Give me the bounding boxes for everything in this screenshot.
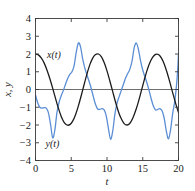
- y-tick-label: −3: [20, 137, 31, 148]
- y-tick-label: −2: [20, 120, 31, 131]
- plot-canvas: −4−3−2−10123405101520tx, yx(t)y(t): [0, 0, 195, 191]
- x-tick-label: 0: [33, 163, 38, 174]
- y-tick-label: 4: [26, 13, 32, 24]
- x-axis-title: t: [106, 176, 110, 187]
- y-tick-label: 0: [26, 84, 31, 95]
- chart-figure: −4−3−2−10123405101520tx, yx(t)y(t) t x, …: [0, 0, 195, 191]
- x-tick-label: 10: [102, 163, 113, 174]
- curve-label-x: x(t): [46, 49, 62, 61]
- x-tick-label: 5: [69, 163, 74, 174]
- y-axis-title: x, y: [2, 82, 13, 98]
- x-tick-label: 15: [138, 163, 149, 174]
- y-tick-label: −4: [20, 155, 32, 166]
- x-tick-label: 20: [173, 163, 184, 174]
- curve-label-y: y(t): [45, 138, 61, 150]
- y-tick-label: 1: [26, 66, 31, 77]
- y-tick-label: 2: [26, 49, 31, 60]
- y-tick-label: 3: [26, 31, 31, 42]
- y-tick-label: −1: [20, 102, 31, 113]
